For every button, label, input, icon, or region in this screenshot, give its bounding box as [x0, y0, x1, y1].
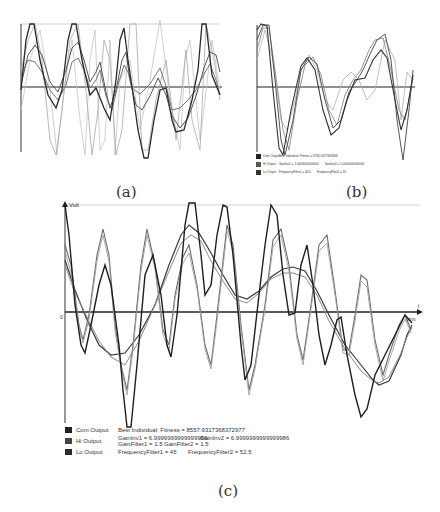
x-axis-arrow-icon — [417, 309, 423, 315]
legend-b-row: Hi OutputGainInv1 = 1.0000000000000GainI… — [256, 160, 370, 168]
caption-c: (c) — [218, 482, 238, 500]
lo-output-swatch — [256, 170, 261, 175]
chart-c-plot: Volt 0 1ms t — [55, 195, 440, 430]
legend-c: Com OutputBest Individual: Fitness = 855… — [65, 425, 299, 457]
legend-c-gains: GainInv1 = 6.9999999999999986GainInv2 = … — [118, 435, 299, 447]
x-axis-label: t — [418, 303, 420, 309]
origin-label: 0 — [60, 314, 63, 320]
chart-c: Volt 0 1ms t Com OutputBest Individual: … — [55, 195, 440, 512]
legend-c-row: Com OutputBest Individual: Fitness = 855… — [65, 425, 299, 435]
hi-output-swatch — [65, 438, 72, 444]
lo-output-swatch — [65, 449, 72, 455]
legend-c-row: Lo OutputFrequencyFilter1 = 45FrequencyF… — [65, 447, 299, 457]
chart-a: (a) — [0, 0, 230, 200]
legend-b-row: Com OutputBest Individual: Fitness = 874… — [256, 152, 370, 160]
y-axis-label: Volt — [69, 202, 79, 208]
com-output-swatch — [65, 427, 72, 433]
chart-a-plot — [0, 0, 230, 170]
hi-output-swatch — [256, 162, 261, 167]
com-output-swatch — [256, 154, 261, 159]
legend-c-row: Hi Output GainInv1 = 6.9999999999999986G… — [65, 435, 299, 447]
legend-b: Com OutputBest Individual: Fitness = 874… — [256, 152, 370, 176]
legend-b-row: Lo OutputFrequencyFilter1 = 44.4Frequenc… — [256, 168, 370, 176]
chart-b: Com OutputBest Individual: Fitness = 874… — [245, 0, 440, 200]
